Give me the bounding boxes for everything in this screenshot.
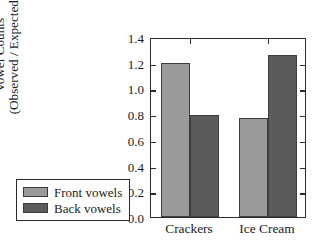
y-tick-mark: [300, 116, 305, 117]
y-tick-mark: [151, 193, 156, 194]
bar: [190, 115, 219, 217]
y-tick-mark: [151, 142, 156, 143]
legend-swatch: [23, 187, 48, 197]
y-tick-label: 0.4: [110, 160, 144, 173]
y-tick-label: 0.8: [110, 109, 144, 122]
y-tick-mark: [300, 65, 305, 66]
legend-swatch: [23, 203, 48, 213]
legend-label: Back vowels: [54, 202, 121, 215]
y-tick-label: 1.2: [110, 57, 144, 70]
legend-item: Front vowels: [23, 184, 122, 200]
x-tick-label: Crackers: [165, 221, 213, 237]
x-tick-label: Ice Cream: [239, 221, 294, 237]
y-tick-mark: [300, 168, 305, 169]
y-tick-mark: [300, 90, 305, 91]
x-tick-mark: [190, 39, 191, 44]
x-tick-mark: [268, 39, 269, 44]
bars-container: [151, 39, 305, 217]
plot-area: [150, 38, 306, 218]
bar: [268, 55, 297, 217]
legend: Front vowelsBack vowels: [16, 179, 130, 221]
y-tick-label: 0.6: [110, 134, 144, 147]
y-tick-label: 1.0: [110, 83, 144, 96]
legend-item: Back vowels: [23, 200, 122, 216]
y-tick-mark: [151, 65, 156, 66]
y-axis-title-line2: (Observed / Expected): [7, 0, 21, 114]
bar-chart-figure: Vowel Counts (Observed / Expected) 1.41.…: [0, 0, 321, 252]
y-tick-mark: [300, 142, 305, 143]
y-tick-mark: [151, 168, 156, 169]
y-tick-label: 1.4: [110, 32, 144, 45]
y-tick-mark: [300, 193, 305, 194]
bar: [161, 63, 190, 217]
y-axis-title: Vowel Counts (Observed / Expected): [0, 0, 24, 145]
bar: [239, 118, 268, 217]
legend-label: Front vowels: [54, 186, 122, 199]
y-tick-mark: [151, 90, 156, 91]
y-tick-mark: [151, 116, 156, 117]
